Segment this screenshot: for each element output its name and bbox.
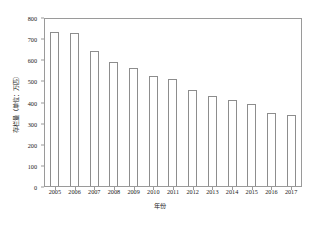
y-axis-tick-label: 400 — [28, 99, 37, 106]
y-axis-tick-mark — [41, 102, 44, 103]
x-axis-tick-mark — [55, 187, 56, 190]
bar — [208, 96, 217, 186]
x-axis-tick-mark — [212, 187, 213, 190]
y-axis-title-wrapper: 存栏量（单位：万匹） — [11, 18, 25, 187]
x-axis-tick-mark — [232, 187, 233, 190]
y-axis-tick-mark — [41, 60, 44, 61]
bar — [267, 113, 276, 186]
bar — [247, 104, 256, 186]
x-axis-tick-mark — [75, 187, 76, 190]
y-axis-tick-label: 0 — [34, 184, 37, 191]
bar-slot — [281, 19, 301, 186]
y-axis-tick-mark — [41, 18, 44, 19]
y-axis-tick-mark — [41, 39, 44, 40]
y-axis-tick-label: 800 — [28, 15, 37, 22]
bar — [90, 51, 99, 186]
bar — [109, 62, 118, 186]
x-axis-tick-mark — [134, 187, 135, 190]
bar-slot — [104, 19, 124, 186]
x-axis-tick-mark — [173, 187, 174, 190]
y-axis-tick-label: 500 — [28, 78, 37, 85]
x-axis-tick-mark — [94, 187, 95, 190]
x-axis-tick-mark — [252, 187, 253, 190]
bar — [149, 76, 158, 186]
bar-slot — [222, 19, 242, 186]
bar — [168, 79, 177, 186]
bar-chart-figure: 0100200300400500600700800 存栏量（单位：万匹） 200… — [0, 0, 320, 226]
x-axis-tick-mark — [193, 187, 194, 190]
y-axis-title: 存栏量（单位：万匹） — [11, 73, 20, 133]
bar-slot — [124, 19, 144, 186]
y-axis-tick-mark — [41, 165, 44, 166]
y-axis-tick-label: 200 — [28, 141, 37, 148]
y-axis-tick-label: 300 — [28, 120, 37, 127]
y-axis-tick-label: 600 — [28, 57, 37, 64]
bar-slot — [203, 19, 223, 186]
x-axis-title: 年份 — [0, 201, 320, 210]
bar — [129, 68, 138, 186]
bar-slot — [183, 19, 203, 186]
bar-slot — [242, 19, 262, 186]
bar-slot — [163, 19, 183, 186]
bar-slot — [143, 19, 163, 186]
x-axis-tick-mark — [271, 187, 272, 190]
y-axis-tick-mark — [41, 81, 44, 82]
bar — [70, 33, 79, 186]
bar-series — [45, 19, 301, 186]
bar — [287, 115, 296, 186]
bar — [188, 90, 197, 186]
bar-slot — [84, 19, 104, 186]
x-axis-tick-mark — [291, 187, 292, 190]
y-axis-tick-label: 700 — [28, 36, 37, 43]
bar-slot — [65, 19, 85, 186]
bar-slot — [45, 19, 65, 186]
x-axis-tick-mark — [153, 187, 154, 190]
y-axis-tick-label: 100 — [28, 162, 37, 169]
y-axis-tick-mark — [41, 123, 44, 124]
bar-slot — [262, 19, 282, 186]
y-axis-tick-mark — [41, 187, 44, 188]
bar — [228, 100, 237, 186]
bar — [50, 32, 59, 186]
y-axis-tick-mark — [41, 144, 44, 145]
x-axis-tick-mark — [114, 187, 115, 190]
